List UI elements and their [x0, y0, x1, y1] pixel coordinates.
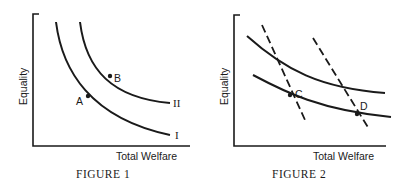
figure-2-caption: FIGURE 2: [272, 168, 326, 180]
y-axis-label: Equality: [218, 67, 230, 105]
point-c-marker: [288, 93, 292, 97]
curve-II-label: II: [173, 97, 181, 109]
figure-1-axes: [33, 14, 190, 146]
figure-1: A B II I Total Welfare Equality FIGURE 1: [17, 14, 190, 180]
figure-1-curve-II: [80, 22, 170, 103]
figure-2-axes: [234, 15, 386, 146]
point-a-marker: [86, 94, 90, 98]
point-d-label: D: [360, 100, 368, 112]
curve-I-label: I: [175, 129, 179, 141]
x-axis-label: Total Welfare: [116, 150, 177, 162]
point-a-label: A: [76, 95, 83, 107]
point-c-label: C: [295, 88, 303, 100]
point-d-marker: [355, 112, 359, 116]
figure-2-right-dashed-line: [313, 38, 369, 129]
figure-1-caption: FIGURE 1: [76, 168, 130, 180]
point-b-label: B: [114, 72, 121, 84]
diagram-canvas: A B II I Total Welfare Equality FIGURE 1…: [0, 0, 409, 186]
point-b-marker: [108, 74, 112, 78]
figure-2: C D Total Welfare Equality FIGURE 2: [218, 15, 391, 180]
x-axis-label: Total Welfare: [313, 150, 374, 162]
figure-1-curve-I: [56, 22, 170, 135]
y-axis-label: Equality: [17, 67, 29, 105]
